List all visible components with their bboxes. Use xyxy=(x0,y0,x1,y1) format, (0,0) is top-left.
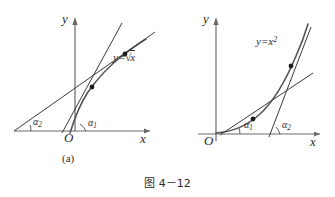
y-axis-arrow-a xyxy=(72,17,77,25)
angle-label-alpha-2-a: α2 xyxy=(33,117,42,129)
curve-label-b-prefix: y= xyxy=(256,35,268,47)
angle-label-alpha-1-b: α1 xyxy=(244,120,253,132)
panel-a: x y O y=√x α1 α2 (a) xyxy=(0,0,168,170)
origin-label-b: O xyxy=(204,134,213,147)
curve-label-a-radicand: x xyxy=(130,50,135,63)
curve-label-a-prefix: y= xyxy=(113,51,125,63)
y-axis-label-a: y xyxy=(62,12,68,25)
angle-label-alpha-1-a: α1 xyxy=(88,118,97,130)
x-axis-label-b: x xyxy=(310,135,316,148)
y-axis-arrow-b xyxy=(213,17,218,25)
figure-caption: 图 4－12 xyxy=(0,174,335,190)
panel-caption-a: (a) xyxy=(62,152,74,164)
angle-arc-2-b xyxy=(276,127,280,134)
angle-arc-2-a xyxy=(30,125,31,131)
angle-arc-1-b xyxy=(239,128,240,134)
y-axis-label-b: y xyxy=(203,12,209,25)
curve-label-a: y=√x xyxy=(113,52,135,63)
tangent-point-2-b xyxy=(289,64,294,69)
alpha-2-b-sub: 2 xyxy=(287,124,291,132)
alpha-1-a-sub: 1 xyxy=(93,122,97,130)
panel-b: x y O y=x2 α1 α2 (b) xyxy=(168,0,335,170)
angle-arc-1-a xyxy=(80,124,86,131)
tangent-line-1-b xyxy=(220,73,313,135)
alpha-1-b-sub: 1 xyxy=(249,124,253,132)
x-axis-label-a: x xyxy=(140,132,146,145)
origin-label-a: O xyxy=(64,131,73,144)
alpha-2-a-sub: 2 xyxy=(38,121,42,129)
tangent-point-1-a xyxy=(90,85,95,90)
figure-container: x y O y=√x α1 α2 (a) xyxy=(0,0,335,197)
curve-label-b-exponent: 2 xyxy=(273,35,277,44)
curve-label-b: y=x2 xyxy=(256,36,277,47)
angle-label-alpha-2-b: α2 xyxy=(282,120,291,132)
